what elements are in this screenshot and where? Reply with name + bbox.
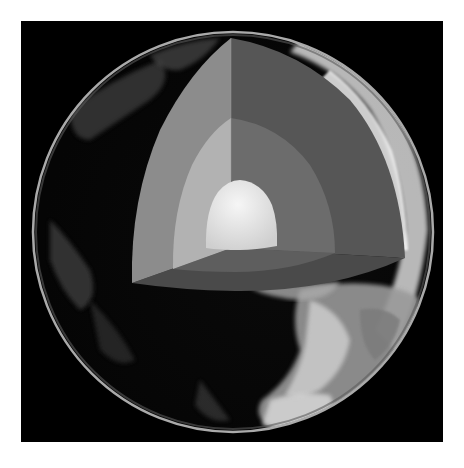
earth-cutaway-illustration [0,0,464,468]
